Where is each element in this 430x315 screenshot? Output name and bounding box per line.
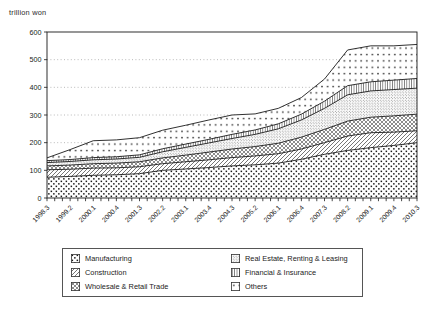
legend-swatch-fine-stipple-icon xyxy=(231,254,240,263)
legend-item-construction: Construction xyxy=(71,266,223,279)
y-tick-label: 500 xyxy=(30,55,42,64)
y-axis: 0100200300400500600 xyxy=(30,28,48,203)
legend-swatch-crosshatch-icon xyxy=(71,282,80,291)
legend-label: Others xyxy=(245,282,267,291)
stacked-area-chart: 01002003004005006001998.31999.22000.1200… xyxy=(0,0,430,242)
legend-column-right: Real Estate, Renting & Leasing Financial… xyxy=(223,249,362,296)
x-tick-label: 1998.3 xyxy=(31,204,51,224)
x-axis: 1998.31999.22000.12000.42001.32002.22003… xyxy=(31,198,421,223)
x-tick-label: 2002.2 xyxy=(147,204,167,224)
legend-label: Wholesale & Retail Trade xyxy=(85,282,168,291)
legend-swatch-sparse-dots-icon xyxy=(231,282,240,291)
x-tick-label: 2009.1 xyxy=(355,204,375,224)
legend-label: Manufacturing xyxy=(85,254,132,263)
x-tick-label: 2010.3 xyxy=(401,204,421,224)
x-tick-label: 2005.2 xyxy=(239,204,259,224)
x-tick-label: 2006.1 xyxy=(262,204,282,224)
legend-label: Financial & Insurance xyxy=(245,268,316,277)
x-tick-label: 2008.2 xyxy=(332,204,352,224)
x-tick-label: 2007.3 xyxy=(309,204,329,224)
y-tick-label: 400 xyxy=(30,83,42,92)
legend-item-real-estate: Real Estate, Renting & Leasing xyxy=(231,252,362,265)
x-tick-label: 2009.4 xyxy=(378,204,398,224)
x-tick-label: 2000.1 xyxy=(77,204,97,224)
x-tick-label: 2003.1 xyxy=(170,204,190,224)
legend-label: Construction xyxy=(85,268,127,277)
x-tick-label: 2001.3 xyxy=(124,204,144,224)
y-tick-label: 0 xyxy=(38,194,42,203)
y-tick-label: 200 xyxy=(30,138,42,147)
x-tick-label: 2006.4 xyxy=(285,204,305,224)
legend-swatch-vertical-lines-icon xyxy=(231,268,240,277)
legend-column-left: Manufacturing Construction Wholesale & R… xyxy=(63,249,223,296)
legend-item-others: Others xyxy=(231,280,362,293)
y-tick-label: 100 xyxy=(30,166,42,175)
y-tick-label: 600 xyxy=(30,28,42,37)
legend: Manufacturing Construction Wholesale & R… xyxy=(62,248,363,297)
legend-item-manufacturing: Manufacturing xyxy=(71,252,223,265)
x-tick-label: 1999.2 xyxy=(54,204,74,224)
y-tick-label: 300 xyxy=(30,111,42,120)
legend-item-wholesale-retail: Wholesale & Retail Trade xyxy=(71,280,223,293)
legend-swatch-dots-medium-icon xyxy=(71,254,80,263)
x-tick-label: 2000.4 xyxy=(100,204,120,224)
x-tick-label: 2003.4 xyxy=(193,204,213,224)
legend-item-financial-insurance: Financial & Insurance xyxy=(231,266,362,279)
x-tick-label: 2004.3 xyxy=(216,204,236,224)
legend-swatch-diagonal-hatch-icon xyxy=(71,268,80,277)
legend-label: Real Estate, Renting & Leasing xyxy=(245,254,348,263)
